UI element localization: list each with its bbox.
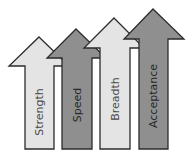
arrow-label-speed: Speed [71,88,84,122]
arrows-svg: Strength Speed Breadth Acceptance [0,0,189,155]
arrow-label-breadth: Breadth [109,77,122,121]
arrow-acceptance: Acceptance [124,9,184,149]
arrow-label-strength: Strength [33,88,46,136]
rising-arrows-diagram: Strength Speed Breadth Acceptance [0,0,189,155]
arrow-label-acceptance: Acceptance [147,64,160,128]
